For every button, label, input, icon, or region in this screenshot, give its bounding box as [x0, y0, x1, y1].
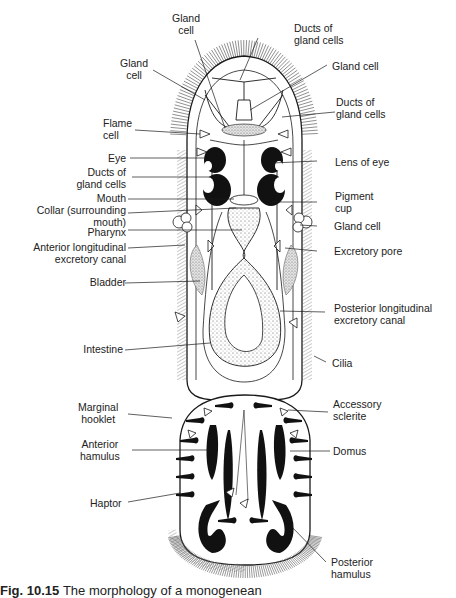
label-eye: Eye — [108, 152, 126, 164]
label-anterior-longitudinal-excretory-canal: Anterior longitudinal excretory canal — [33, 241, 126, 265]
label-text: Posterior hamulus — [331, 556, 373, 580]
label-cilia: Cilia — [332, 357, 352, 369]
label-ducts-of-gland-cells-top: Ducts of gland cells — [294, 22, 344, 46]
label-pharynx: Pharynx — [87, 226, 126, 238]
label-text: Lens of eye — [335, 156, 389, 168]
label-anterior-hamulus: Anterior hamulus — [80, 438, 120, 462]
label-text: Gland cell — [120, 57, 148, 81]
label-text: Domus — [333, 445, 366, 457]
label-text: Accessory sclerite — [333, 398, 381, 422]
label-text: Eye — [108, 152, 126, 164]
label-text: Gland cell — [172, 12, 200, 36]
label-ducts-of-gland-cells-right: Ducts of gland cells — [336, 96, 386, 120]
label-text: Haptor — [90, 497, 122, 509]
label-lens-of-eye: Lens of eye — [335, 156, 389, 168]
label-text: Pharynx — [87, 226, 126, 238]
caption-text: The morphology of a monogenean — [63, 583, 262, 598]
label-text: Flame cell — [103, 117, 132, 141]
label-text: Mouth — [97, 192, 126, 204]
label-text: Pigment cup — [335, 190, 374, 214]
label-accessory-sclerite: Accessory sclerite — [333, 398, 381, 422]
label-bladder: Bladder — [90, 276, 126, 288]
label-text: Ducts of gland cells — [76, 166, 126, 190]
label-intestine: Intestine — [83, 343, 123, 355]
caption-number: Fig. 10.15 — [0, 583, 59, 598]
label-text: Marginal hooklet — [78, 401, 118, 425]
figure-caption: Fig. 10.15 The morphology of a monogenea… — [0, 584, 262, 598]
label-collar: Collar (surrounding mouth) — [37, 204, 126, 228]
label-ducts-of-gland-cells-left: Ducts of gland cells — [76, 166, 126, 190]
label-marginal-hooklet: Marginal hooklet — [78, 401, 118, 425]
label-text: Collar (surrounding mouth) — [37, 204, 126, 228]
label-text: Ducts of gland cells — [294, 22, 344, 46]
label-text: Gland cell — [332, 60, 379, 72]
label-text: Ducts of gland cells — [336, 96, 386, 120]
label-text: Cilia — [332, 357, 352, 369]
label-text: Anterior longitudinal excretory canal — [33, 241, 126, 265]
label-gland-cell-right-top: Gland cell — [332, 60, 379, 72]
label-text: Bladder — [90, 276, 126, 288]
label-text: Anterior hamulus — [80, 438, 120, 462]
label-text: Gland cell — [334, 220, 381, 232]
label-pigment-cup: Pigment cup — [335, 190, 374, 214]
label-haptor: Haptor — [90, 497, 122, 509]
label-gland-cell-top: Gland cell — [172, 12, 200, 36]
label-excretory-pore: Excretory pore — [334, 245, 402, 257]
label-gland-cell-left: Gland cell — [120, 57, 148, 81]
label-mouth: Mouth — [97, 192, 126, 204]
label-domus: Domus — [333, 445, 366, 457]
label-text: Intestine — [83, 343, 123, 355]
label-flame-cell: Flame cell — [103, 117, 132, 141]
label-posterior-hamulus: Posterior hamulus — [331, 556, 373, 580]
label-text: Posterior longitudinal excretory canal — [334, 302, 432, 326]
label-posterior-longitudinal-excretory-canal: Posterior longitudinal excretory canal — [334, 302, 432, 326]
label-gland-cell-right: Gland cell — [334, 220, 381, 232]
label-text: Excretory pore — [334, 245, 402, 257]
